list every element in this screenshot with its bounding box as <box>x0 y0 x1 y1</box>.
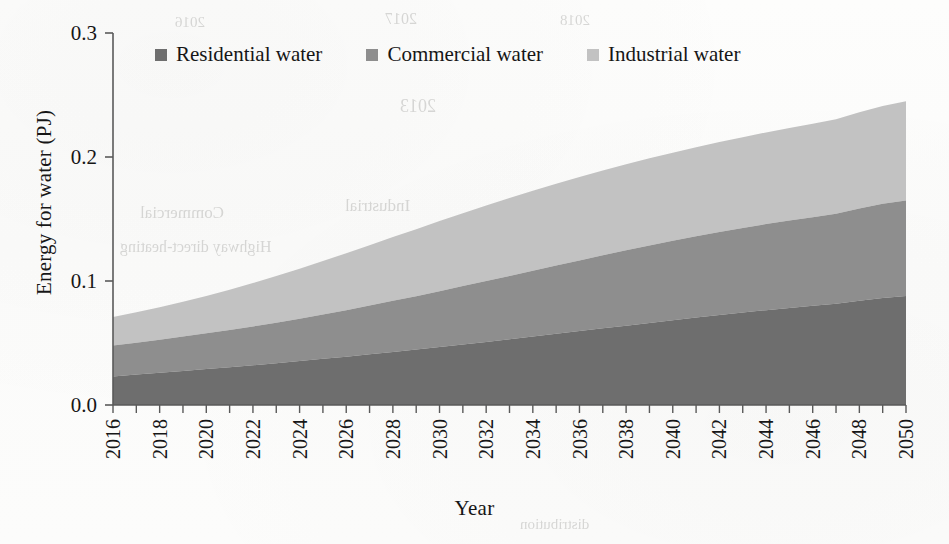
x-tick-label: 2042 <box>708 419 730 459</box>
x-tick-label: 2040 <box>662 419 684 459</box>
x-tick-label: 2024 <box>289 419 311 459</box>
x-tick-label: 2026 <box>335 419 357 459</box>
area-series-group <box>113 101 906 405</box>
x-tick-label: 2022 <box>242 419 264 459</box>
x-tick-label: 2046 <box>802 419 824 459</box>
x-tick-label: 2030 <box>429 419 451 459</box>
x-tick-label: 2034 <box>522 419 544 459</box>
x-tick-label: 2044 <box>755 419 777 459</box>
x-tick-label: 2050 <box>895 419 917 459</box>
y-tick-labels: 0.00.10.20.3 <box>71 21 97 417</box>
x-tick-label: 2032 <box>475 419 497 459</box>
y-tick-label: 0.2 <box>71 145 97 169</box>
x-tick-label: 2020 <box>195 419 217 459</box>
x-tick-label: 2018 <box>149 419 171 459</box>
x-tick-label: 2038 <box>615 419 637 459</box>
y-tick-label: 0.1 <box>71 269 97 293</box>
x-tick-labels: 2016201820202022202420262028203020322034… <box>102 419 917 459</box>
x-tick-label: 2016 <box>102 419 124 459</box>
y-tick-label: 0.3 <box>71 21 97 45</box>
x-tick-label: 2036 <box>569 419 591 459</box>
plot-area: 0.00.10.20.3 201620182020202220242026202… <box>0 0 949 544</box>
x-tick-label: 2028 <box>382 419 404 459</box>
x-tick-label: 2048 <box>848 419 870 459</box>
y-tick-label: 0.0 <box>71 393 97 417</box>
stacked-area-chart: 2016201720182013IndustrialCommercialHigh… <box>0 0 949 544</box>
